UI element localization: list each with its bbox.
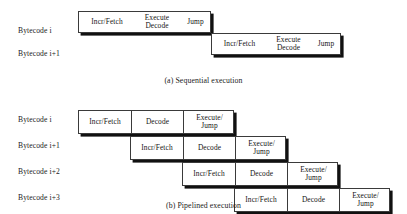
pipelined-row-label-bytecode-i-plus-1: Bytecode i+1 — [18, 141, 60, 150]
sequential-stage-jump-row-0: Jump — [179, 12, 212, 32]
pipelined-stage-incr-fetch-row-2: Incr/Fetch — [183, 163, 235, 185]
sequential-row-label-bytecode-i-plus-1: Bytecode i+1 — [18, 49, 60, 58]
pipelined-bar-bytecode-i: Incr/Fetch Decode Execute/ Jump — [78, 110, 234, 134]
sequential-stage-execute-decode-row-0: Execute Decode — [135, 12, 179, 32]
pipelined-stage-execute-jump-row-1: Execute/ Jump — [235, 137, 287, 159]
sequential-bar-bytecode-i: Incr/Fetch Execute Decode Jump — [78, 11, 211, 33]
sequential-stage-jump-row-1: Jump — [310, 34, 342, 54]
pipelined-row-label-bytecode-i: Bytecode i — [18, 115, 52, 124]
pipelined-stage-decode-row-0: Decode — [131, 111, 183, 133]
sequential-stage-incr-fetch-row-0: Incr/Fetch — [79, 12, 135, 32]
pipelined-stage-decode-row-1: Decode — [183, 137, 235, 159]
pipelined-row-label-bytecode-i-plus-2: Bytecode i+2 — [18, 167, 60, 176]
pipelined-bar-bytecode-i-plus-1: Incr/Fetch Decode Execute/ Jump — [130, 136, 286, 160]
pipelined-stage-incr-fetch-row-0: Incr/Fetch — [79, 111, 131, 133]
pipelined-execution-caption: (b) Pipelined execution — [0, 201, 407, 211]
pipelined-bar-bytecode-i-plus-2: Incr/Fetch Decode Execute/ Jump — [182, 162, 338, 186]
sequential-row-label-bytecode-i: Bytecode i — [18, 26, 52, 35]
sequential-bar-bytecode-i-plus-1: Incr/Fetch Execute Decode Jump — [211, 33, 341, 55]
sequential-stage-execute-decode-row-1: Execute Decode — [267, 34, 310, 54]
pipelined-stage-execute-jump-row-2: Execute/ Jump — [287, 163, 339, 185]
bytecode-execution-figure: Bytecode i Bytecode i+1 Incr/Fetch Execu… — [0, 0, 407, 214]
pipelined-stage-incr-fetch-row-1: Incr/Fetch — [131, 137, 183, 159]
pipelined-stage-decode-row-2: Decode — [235, 163, 287, 185]
sequential-stage-incr-fetch-row-1: Incr/Fetch — [212, 34, 267, 54]
sequential-execution-caption: (a) Sequential execution — [0, 76, 407, 86]
pipelined-stage-execute-jump-row-0: Execute/ Jump — [183, 111, 235, 133]
